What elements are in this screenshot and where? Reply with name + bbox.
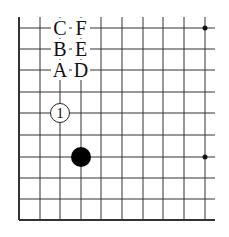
- black-stone: [71, 147, 91, 167]
- point-label-e: E: [75, 38, 87, 60]
- move-number: 1: [56, 105, 64, 121]
- star-point: [203, 155, 208, 160]
- board-grid: [19, 17, 215, 220]
- point-label-d: D: [74, 59, 88, 81]
- point-label-c: C: [53, 17, 66, 39]
- point-label-f: F: [75, 17, 86, 39]
- star-point: [203, 26, 208, 31]
- point-label-b: B: [53, 38, 66, 60]
- point-label-a: A: [53, 59, 68, 81]
- go-board: CBAFED1: [0, 0, 229, 237]
